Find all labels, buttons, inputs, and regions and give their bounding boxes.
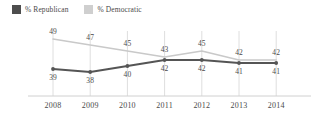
x-axis-tick-label: 2014 xyxy=(268,101,285,110)
x-axis-tick-label: 2013 xyxy=(231,101,248,110)
data-point-republican xyxy=(274,61,278,65)
value-label-republican: 41 xyxy=(235,68,243,76)
x-axis-tick-label: 2009 xyxy=(82,101,99,110)
value-label-republican: 42 xyxy=(198,65,206,73)
value-label-democratic: 49 xyxy=(49,28,57,36)
value-label-republican: 38 xyxy=(86,77,94,85)
value-label-democratic: 42 xyxy=(235,49,243,57)
data-point-republican xyxy=(200,58,204,62)
x-axis-tick-label: 2010 xyxy=(119,101,136,110)
value-label-democratic: 45 xyxy=(198,40,206,48)
value-label-republican: 42 xyxy=(161,65,169,73)
value-label-democratic: 47 xyxy=(86,34,94,42)
x-axis-tick-label: 2012 xyxy=(193,101,210,110)
data-point-republican xyxy=(88,70,92,74)
data-point-republican xyxy=(126,64,130,68)
data-point-republican xyxy=(237,61,241,65)
value-label-democratic: 42 xyxy=(272,49,280,57)
x-axis-tick-label: 2008 xyxy=(45,101,62,110)
line-chart: % Republican % Democratic 39384042424141… xyxy=(0,0,332,119)
data-point-republican xyxy=(51,67,55,71)
x-axis-tick-label: 2011 xyxy=(156,101,173,110)
value-label-republican: 39 xyxy=(49,74,57,82)
value-label-democratic: 43 xyxy=(161,46,169,54)
value-label-republican: 41 xyxy=(272,68,280,76)
value-label-democratic: 45 xyxy=(124,40,132,48)
value-label-republican: 40 xyxy=(124,71,132,79)
data-point-republican xyxy=(163,58,167,62)
